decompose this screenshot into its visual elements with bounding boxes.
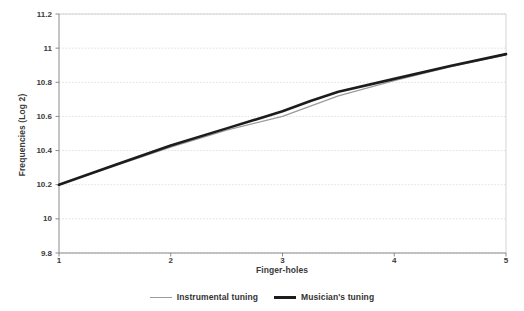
x-tick-label: 1	[44, 256, 74, 265]
chart-legend: Instrumental tuningMusician's tuning	[0, 292, 524, 302]
x-tick-label: 2	[156, 256, 186, 265]
chart-figure: Frequencies (Log 2) 11.21110.810.610.410…	[0, 0, 524, 311]
x-tick-label: 5	[491, 256, 521, 265]
legend-line-swatch-icon	[150, 297, 172, 298]
axis-lines	[59, 14, 506, 253]
legend-item: Instrumental tuning	[150, 292, 258, 302]
data-series	[59, 54, 506, 185]
series-line-musician	[59, 54, 506, 185]
legend-label: Instrumental tuning	[177, 292, 258, 302]
legend-item: Musician's tuning	[274, 292, 374, 302]
plot-frame	[59, 14, 506, 253]
axis-ticks	[56, 14, 507, 257]
legend-line-swatch-icon	[274, 296, 296, 299]
x-axis-title: Finger-holes	[58, 265, 506, 275]
x-tick-label: 3	[268, 256, 298, 265]
gridlines	[59, 14, 506, 253]
x-tick-label: 4	[379, 256, 409, 265]
series-line-instrumental	[59, 55, 506, 185]
legend-label: Musician's tuning	[301, 292, 374, 302]
